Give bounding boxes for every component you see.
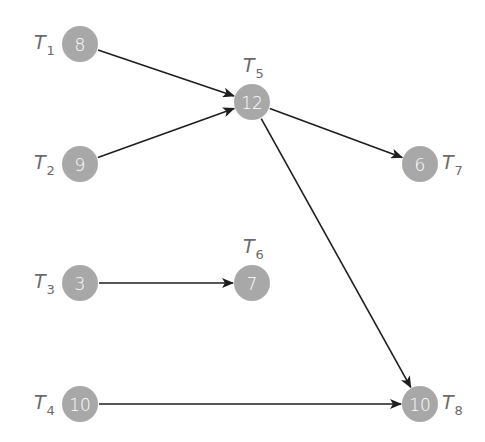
- node-t3: 3T3: [34, 265, 98, 301]
- task-label: T8: [442, 391, 463, 418]
- node-value: 8: [75, 35, 86, 55]
- task-label: T5: [243, 54, 264, 81]
- edge-t2-to-t5: [98, 108, 234, 157]
- edge-t1-to-t5: [98, 50, 234, 96]
- node-value: 10: [69, 395, 91, 415]
- node-value: 9: [75, 155, 86, 175]
- task-label: T2: [34, 151, 55, 178]
- task-label: T3: [34, 270, 55, 297]
- edge-t5-to-t8: [261, 119, 411, 388]
- node-value: 6: [415, 155, 426, 175]
- node-t5: 12T5: [234, 54, 270, 120]
- task-label: T4: [34, 391, 55, 418]
- node-value: 10: [409, 395, 431, 415]
- task-graph: 8T19T23T310T412T57T66T710T8: [0, 0, 485, 442]
- nodes-layer: 8T19T23T310T412T57T66T710T8: [34, 26, 463, 422]
- task-label: T1: [34, 31, 55, 58]
- task-label: T7: [442, 151, 463, 178]
- node-value: 3: [75, 274, 86, 294]
- node-value: 12: [241, 93, 263, 113]
- node-t4: 10T4: [34, 386, 98, 422]
- node-t6: 7T6: [234, 235, 270, 301]
- node-t7: 6T7: [402, 146, 463, 182]
- node-t2: 9T2: [34, 146, 98, 182]
- task-label: T6: [243, 235, 264, 262]
- node-t1: 8T1: [34, 26, 98, 62]
- node-value: 7: [247, 274, 258, 294]
- edge-t5-to-t7: [270, 109, 402, 158]
- node-t8: 10T8: [402, 386, 463, 422]
